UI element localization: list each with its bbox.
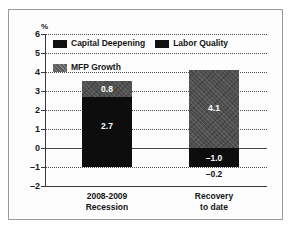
chart-plot-area: % 6 5 4 3 2 1 0 –1 –2 bbox=[9, 10, 284, 221]
y-tick-label-4: 4 bbox=[9, 68, 40, 77]
y-tick-label-6: 6 bbox=[9, 30, 40, 39]
y-tick-mark-0 bbox=[41, 148, 46, 149]
bar-value-label: 0.8 bbox=[82, 84, 132, 94]
bar-value-label: 4.1 bbox=[189, 103, 239, 113]
bar-value-label: –1.0 bbox=[189, 153, 239, 163]
category-line-1: 2008-2009 bbox=[87, 191, 128, 201]
y-tick-mark-neg1 bbox=[41, 167, 46, 168]
y-tick-text: 5 bbox=[14, 49, 40, 58]
legend-row-primary: Capital Deepening Labor Quality bbox=[53, 39, 238, 48]
y-tick-text: 1 bbox=[14, 125, 40, 134]
y-tick-mark-neg2 bbox=[41, 186, 46, 187]
y-tick-mark-2 bbox=[41, 110, 46, 111]
category-line-2: to date bbox=[200, 202, 228, 212]
legend-label-labor-quality: Labor Quality bbox=[173, 39, 228, 48]
bar-segment-recession-capital-deepening[interactable]: 2.7 bbox=[82, 97, 132, 167]
gridline-5 bbox=[46, 53, 267, 54]
category-label-recovery: Recovery to date bbox=[179, 191, 249, 213]
y-tick-text: 0 bbox=[14, 144, 40, 153]
legend-swatch-icon-labor-quality bbox=[155, 40, 169, 48]
y-tick-text: 3 bbox=[14, 87, 40, 96]
legend-item-capital-deepening[interactable]: Capital Deepening bbox=[53, 39, 145, 48]
bar-segment-recovery-mfp-growth[interactable]: 4.1 bbox=[189, 70, 239, 148]
y-tick-label-neg1: –1 bbox=[9, 163, 40, 172]
y-tick-mark-4 bbox=[41, 72, 46, 73]
y-tick-mark-1 bbox=[41, 129, 46, 130]
y-tick-label-2: 2 bbox=[9, 106, 40, 115]
bar-segment-recession-mfp-growth[interactable]: 0.8 bbox=[82, 81, 132, 97]
legend-row-secondary: MFP Growth bbox=[53, 63, 131, 72]
y-tick-label-neg2: –2 bbox=[9, 182, 40, 191]
legend-label-mfp-growth: MFP Growth bbox=[71, 63, 121, 72]
y-tick-text: 2 bbox=[14, 106, 40, 115]
y-tick-label-5: 5 bbox=[9, 49, 40, 58]
x-axis-line bbox=[45, 186, 267, 187]
legend-swatch-icon-mfp-growth bbox=[53, 64, 67, 72]
category-line-1: Recovery bbox=[195, 191, 233, 201]
y-tick-mark-6 bbox=[41, 34, 46, 35]
legend-item-labor-quality[interactable]: Labor Quality bbox=[155, 39, 228, 48]
y-tick-text: 4 bbox=[14, 68, 40, 77]
chart-figure-frame: % 6 5 4 3 2 1 0 –1 –2 bbox=[8, 9, 283, 220]
legend-label-capital-deepening: Capital Deepening bbox=[71, 39, 145, 48]
y-tick-text: 6 bbox=[14, 30, 40, 39]
y-tick-label-1: 1 bbox=[9, 125, 40, 134]
y-tick-text: –1 bbox=[14, 163, 40, 172]
bar-annotation-recovery-net: –0.2 bbox=[189, 169, 239, 179]
y-tick-label-3: 3 bbox=[9, 87, 40, 96]
category-label-recession: 2008-2009 Recession bbox=[72, 191, 142, 213]
bar-value-label: 2.7 bbox=[82, 121, 132, 131]
y-tick-mark-5 bbox=[41, 53, 46, 54]
legend-item-mfp-growth[interactable]: MFP Growth bbox=[53, 63, 121, 72]
category-line-2: Recession bbox=[86, 202, 129, 212]
legend-swatch-icon-capital-deepening bbox=[53, 40, 67, 48]
y-axis-unit-label: % bbox=[41, 22, 48, 31]
gridline-6 bbox=[46, 34, 267, 35]
y-tick-text: –2 bbox=[14, 182, 40, 191]
gridline-neg1 bbox=[46, 167, 267, 168]
y-tick-mark-3 bbox=[41, 91, 46, 92]
y-tick-label-0: 0 bbox=[9, 144, 40, 153]
bar-segment-recovery-labor-quality[interactable]: –1.0 bbox=[189, 148, 239, 167]
